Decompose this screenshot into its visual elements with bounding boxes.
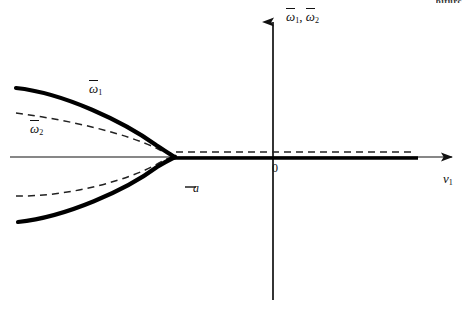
y-axis-omega1-subscript: 1 xyxy=(295,16,299,25)
omega1-lower-solid-curve xyxy=(18,157,175,222)
y-axis-omega2-subscript: 2 xyxy=(315,16,319,25)
x-axis-symbol: v xyxy=(443,171,449,186)
branch-point-symbol: a xyxy=(193,181,199,195)
bifurcation-figure: bifurc ω1, ω2 xyxy=(0,0,474,313)
y-axis-omega1-symbol: ω xyxy=(286,10,295,23)
omega2-lower-dashed-curve xyxy=(16,156,175,196)
y-axis-omega2-symbol: ω xyxy=(306,10,315,23)
omega2-symbol: ω xyxy=(30,122,39,135)
omega1-subscript: 1 xyxy=(98,88,102,97)
x-axis-label: v1 xyxy=(443,172,453,185)
omega2-subscript: 2 xyxy=(39,128,43,137)
omega1-symbol: ω xyxy=(89,82,98,95)
plot-canvas xyxy=(0,0,474,313)
branch-point-label: a xyxy=(193,182,199,194)
omega2-curve-label: ω2 xyxy=(30,122,43,135)
y-axis-label: ω1, ω2 xyxy=(286,10,319,23)
x-axis-subscript: 1 xyxy=(449,178,453,187)
origin-label: 0 xyxy=(272,162,278,174)
omega1-curve-label: ω1 xyxy=(89,82,102,95)
